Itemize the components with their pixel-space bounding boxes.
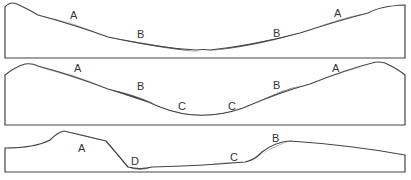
label-a: A	[334, 7, 342, 19]
label-a: A	[70, 9, 78, 21]
panel-2-profile	[5, 62, 405, 125]
label-a: A	[78, 142, 86, 154]
label-b: B	[137, 28, 144, 40]
label-c: C	[230, 151, 238, 163]
panel-3-profile	[5, 131, 405, 172]
panel-1-profile	[5, 3, 405, 58]
label-a: A	[332, 62, 340, 74]
label-b: B	[273, 79, 280, 91]
label-c: C	[178, 100, 186, 112]
label-d: D	[131, 155, 139, 167]
panel-3: A D C B	[5, 131, 405, 172]
label-b: B	[137, 80, 144, 92]
panel-2: A B C C B A	[5, 62, 405, 125]
panel-2-zone-a-left	[35, 66, 105, 88]
valley-profiles-diagram: A B B A A B C C B A A D C B	[0, 0, 411, 180]
panel-1: A B B A	[5, 3, 405, 58]
label-b: B	[272, 132, 279, 144]
label-a: A	[74, 62, 82, 74]
label-c: C	[228, 100, 236, 112]
label-b: B	[273, 27, 280, 39]
